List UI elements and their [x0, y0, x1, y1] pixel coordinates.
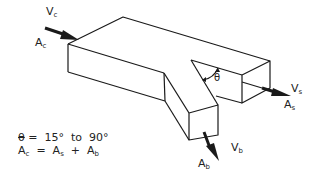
trunk-top-back-edge	[68, 17, 270, 61]
inlet-arrow-head	[60, 30, 79, 40]
label-ac: Ac	[35, 36, 46, 53]
label-vb: Vb	[231, 141, 243, 158]
trunk-front-top-edge	[68, 44, 164, 73]
straight-bottom-edge	[216, 96, 242, 103]
angle-range-note: θ = 15° to 90°	[18, 131, 108, 144]
branch-left-top-edge	[164, 73, 189, 113]
label-as: As	[284, 98, 295, 115]
straight-outlet-face	[242, 61, 270, 103]
straight-arrow-head	[271, 88, 291, 96]
label-ab: Ab	[198, 157, 210, 174]
label-vs: Vs	[291, 82, 302, 99]
label-vc: Vc	[46, 5, 57, 22]
label-theta: θ	[214, 71, 220, 84]
trunk-bottom-edge	[68, 72, 165, 101]
area-equation-note: Ac = As + Ab	[18, 144, 99, 161]
straight-inner-line	[242, 82, 262, 88]
trunk-front-corner	[164, 73, 165, 101]
